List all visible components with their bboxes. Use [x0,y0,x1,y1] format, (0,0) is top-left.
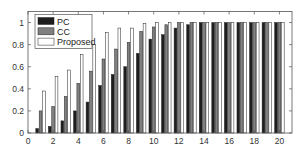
bar-cc [89,71,92,133]
bar-group [74,55,83,133]
bar-cc [165,25,168,133]
bar-pc [99,86,102,134]
bar-proposed [219,23,222,133]
bar-pc [174,28,177,133]
bar-cc [177,23,180,133]
bar-cc [77,83,80,133]
x-tick-label: 2 [51,136,56,146]
bar-proposed [43,91,46,133]
bar-pc [224,23,227,133]
bar-group [262,23,272,133]
legend-label-pc: PC [57,17,70,27]
bar-cc [265,23,268,133]
bar-proposed [93,45,96,133]
bar-cc [152,27,155,133]
bar-group [149,23,159,133]
x-tick-label: 8 [126,136,131,146]
bar-group [237,23,247,133]
bar-pc [162,35,165,133]
bar-proposed [168,23,171,133]
bar-pc [187,25,190,133]
bar-proposed [193,23,196,133]
bar-pc [136,53,139,133]
bar-cc [190,23,193,133]
bar-cc [253,23,256,133]
y-tick-label: 0.2 [12,106,24,116]
bar-proposed [105,32,108,133]
bar-pc [111,74,114,133]
bar-pc [250,23,253,133]
bar-pc [124,67,127,133]
bar-cc [240,23,243,133]
bar-chart: 00.20.40.60.81 02468101214161820 PCCCPro… [0,0,305,153]
bar-pc [48,126,51,133]
bar-proposed [80,55,83,133]
bar-group [99,32,109,133]
x-tick-label: 16 [224,136,234,146]
x-tick-label: 20 [275,136,285,146]
y-tick-label: 0 [19,128,24,138]
y-tick-label: 0.6 [12,62,24,72]
bar-proposed [143,24,146,133]
bar-proposed [244,23,247,133]
legend-label-cc: CC [57,27,70,37]
legend-swatch-pc [38,18,54,25]
bar-group [174,23,184,133]
legend-label-proposed: Proposed [57,37,96,47]
bar-proposed [156,23,159,133]
bar-proposed [269,23,272,133]
bar-proposed [206,23,209,133]
y-tick-label: 0.8 [12,40,24,50]
bar-proposed [231,23,234,133]
x-tick-label: 12 [174,136,184,146]
bar-cc [127,42,130,133]
bar-cc [52,106,55,133]
bar-proposed [281,23,284,133]
bar-pc [86,102,89,133]
bar-proposed [68,70,71,133]
bar-pc [262,23,265,133]
bar-cc [115,49,118,133]
bar-cc [203,23,206,133]
bar-cc [140,31,143,133]
bar-cc [228,23,231,133]
bar-pc [212,23,215,133]
bar-pc [74,111,77,133]
bar-proposed [118,28,121,133]
bar-proposed [131,28,134,133]
bar-group [224,23,234,133]
bar-group [136,24,146,133]
bar-group [86,45,95,133]
x-tick-label: 6 [101,136,106,146]
x-tick-label: 18 [250,136,260,146]
bar-group [250,23,259,133]
y-tick-label: 1 [19,18,24,28]
bar-group [212,23,222,133]
bar-proposed [181,23,184,133]
bar-group [61,70,70,133]
bar-pc [61,121,64,133]
bar-group [275,23,285,133]
bar-pc [36,129,39,133]
bar-cc [64,97,67,133]
bar-cc [102,59,105,133]
bar-group [199,23,209,133]
bar-group [187,23,197,133]
legend-swatch-cc [38,28,54,35]
x-tick-label: 0 [26,136,31,146]
bar-pc [199,23,202,133]
bar-proposed [55,77,58,133]
bar-pc [149,39,152,133]
bar-group [111,28,121,133]
bar-pc [275,23,278,133]
x-tick-label: 14 [199,136,209,146]
legend: PCCCProposed [35,15,96,49]
y-tick-label: 0.4 [12,84,24,94]
x-tick-label: 4 [76,136,81,146]
bar-pc [237,23,240,133]
bar-cc [278,23,281,133]
bar-group [124,28,134,133]
bar-cc [215,23,218,133]
bar-group [36,91,46,133]
x-tick-label: 10 [149,136,159,146]
